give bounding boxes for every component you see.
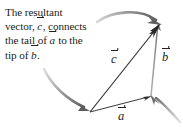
pointer-to-tail-of-a-icon (44, 69, 90, 111)
vector-c-label-glyph: c (111, 52, 117, 67)
vector-a-label-glyph: a (118, 109, 125, 124)
vector-c-label: c (111, 52, 117, 67)
vector-b-label: b (162, 50, 169, 65)
vector-addition-figure: The resultant vector, c, connects the ta… (0, 0, 183, 127)
pointer-to-junction-icon (150, 94, 180, 122)
vector-c-arrow (90, 24, 161, 113)
vector-b-label-glyph: b (162, 50, 169, 65)
pointer-to-tip-of-b-icon (97, 12, 162, 25)
vector-a-label: a (118, 109, 125, 124)
vector-triangle-diagram (0, 0, 183, 127)
